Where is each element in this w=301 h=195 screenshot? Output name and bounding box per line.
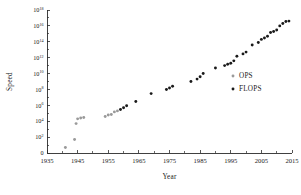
speed-vs-year-scatter-chart: 010210410610810101012101410161018 193519… [0,0,301,195]
y-tick-label: 108 [35,85,43,92]
data-point [150,92,153,95]
y-axis-ticks: 010210410610810101012101410161018 [33,6,50,156]
data-point [226,63,229,66]
data-point [75,122,78,125]
data-point [257,41,260,44]
legend-marker-flops [232,88,235,91]
x-tick-label: 2015 [285,157,299,164]
y-tick-label: 1016 [33,22,43,29]
data-point [110,113,113,116]
data-point [245,51,248,54]
data-point [79,117,82,120]
y-tick-label: 1014 [33,38,43,45]
data-point [202,72,205,75]
data-point [229,62,232,65]
x-tick-label: 1995 [224,157,238,164]
data-point [260,38,263,41]
axis-titles: YearSpeed [6,72,177,181]
data-point [165,88,168,91]
data-point [223,64,226,67]
x-tick-label: 1935 [40,157,54,164]
data-point [104,115,107,118]
x-axis-ticks: 193519451955196519751985199520052015 [40,150,299,164]
data-point [171,85,174,88]
series-ops [64,109,119,148]
legend-label-ops: OPS [239,72,253,80]
chart-axes [47,10,292,153]
y-tick-label: 1018 [33,6,43,13]
data-point [263,37,266,40]
data-point [214,67,217,70]
data-point [199,75,202,78]
data-point [232,59,235,62]
data-point [168,87,171,90]
x-axis-title: Year [162,173,177,181]
series-flops [119,20,290,111]
x-tick-label: 1965 [132,157,146,164]
data-point [125,104,128,107]
data-point [251,43,254,46]
data-point [116,109,119,112]
data-point [196,78,199,81]
data-point [122,106,125,109]
x-tick-label: 1945 [71,157,85,164]
y-tick-label: 1012 [33,54,43,61]
data-point [278,24,281,27]
data-point [266,35,269,38]
data-point [242,52,245,55]
x-tick-label: 1955 [102,157,116,164]
data-point [275,29,278,32]
data-point [76,117,79,120]
data-point [119,108,122,111]
data-point [134,100,137,103]
x-tick-label: 1975 [163,157,177,164]
x-tick-label: 2005 [255,157,269,164]
y-axis-title: Speed [6,72,14,91]
y-tick-label: 104 [35,117,43,124]
data-point [64,146,67,149]
data-point [287,20,290,23]
data-point [113,110,116,113]
data-point [284,20,287,23]
data-point [107,114,110,117]
legend-label-flops: FLOPS [239,85,262,93]
data-point [189,80,192,83]
data-point [73,138,76,141]
y-tick-label: 102 [35,133,43,140]
chart-legend: OPSFLOPS [232,72,262,93]
y-tick-label: 1010 [33,69,43,76]
data-point [235,55,238,58]
data-point [272,30,275,33]
y-tick-label: 0 [40,149,43,156]
legend-marker-ops [232,75,235,78]
chart-canvas: 010210410610810101012101410161018 193519… [0,0,301,195]
axis-frame [47,10,292,153]
data-point [281,22,284,25]
x-tick-label: 1985 [194,157,208,164]
y-tick-label: 106 [35,101,43,108]
data-point [82,116,85,119]
data-point [269,31,272,34]
